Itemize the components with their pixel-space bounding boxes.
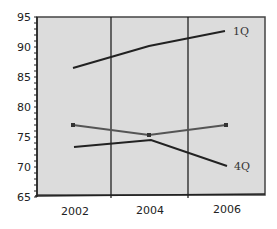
- x-tick-label: 2006: [213, 203, 241, 216]
- y-tick-label: 90: [17, 41, 31, 54]
- data-point-marker: [224, 123, 228, 127]
- y-tick-label: 95: [17, 11, 31, 24]
- y-tick-label: 70: [17, 161, 31, 174]
- y-tick-label: 65: [17, 191, 31, 204]
- x-tick-label: 2004: [136, 204, 164, 217]
- series-4q-label: 4Q: [234, 160, 250, 173]
- y-tick-label: 75: [17, 131, 31, 144]
- plot-area: [37, 17, 265, 195]
- x-tick-label: 2002: [61, 205, 89, 218]
- y-tick-label: 85: [17, 71, 31, 84]
- y-tick-label: 80: [17, 101, 31, 114]
- series-1q-label: 1Q: [233, 25, 249, 38]
- data-point-marker: [71, 123, 75, 127]
- data-point-marker: [147, 133, 151, 137]
- line-chart: 95 90 85 80 75 70 65 2002 2004 2006 1Q 4…: [0, 0, 277, 229]
